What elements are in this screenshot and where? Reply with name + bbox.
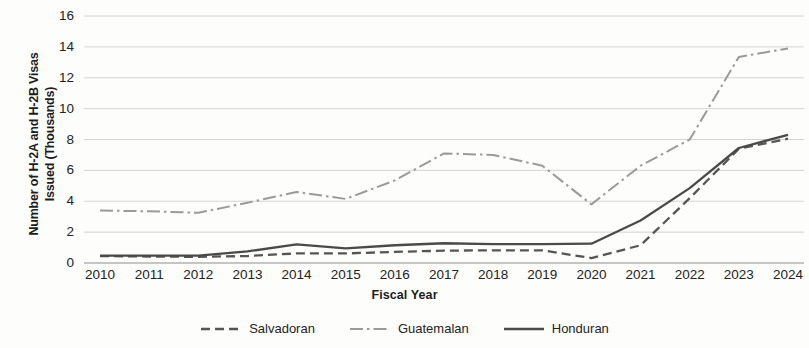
solid-line-icon: [503, 323, 545, 335]
x-axis-title: Fiscal Year: [0, 288, 809, 302]
y-axis-tick-2: 2: [44, 225, 74, 239]
y-axis-tick-14: 14: [44, 40, 74, 54]
legend-item-honduran[interactable]: Honduran: [503, 322, 609, 336]
series-line-guatemalan: [100, 48, 788, 212]
y-axis-tick-12: 12: [44, 71, 74, 85]
dashed-line-icon: [200, 323, 242, 335]
x-axis-tick-2017: 2017: [416, 266, 472, 284]
chart-legend: SalvadoranGuatemalanHonduran: [0, 322, 809, 336]
series-line-salvadoran: [100, 139, 788, 258]
x-axis-tick-2014: 2014: [269, 266, 325, 284]
legend-item-salvadoran[interactable]: Salvadoran: [200, 322, 315, 336]
y-axis-tick-0: 0: [44, 256, 74, 270]
x-axis-tick-labels: 2010201120122013201420152016201720182019…: [84, 266, 804, 288]
x-axis-tick-2022: 2022: [662, 266, 718, 284]
legend-label-guatemalan: Guatemalan: [398, 322, 469, 336]
plot-svg: [84, 0, 804, 264]
x-axis-tick-2021: 2021: [613, 266, 669, 284]
y-axis-tick-16: 16: [44, 9, 74, 23]
plot-area: [84, 0, 804, 264]
x-axis-tick-2020: 2020: [563, 266, 619, 284]
x-axis-tick-2018: 2018: [465, 266, 521, 284]
x-axis-tick-2024: 2024: [760, 266, 809, 284]
x-axis-tick-2016: 2016: [367, 266, 423, 284]
line-chart: Number of H-2A and H-2B Visas Issued (Th…: [0, 0, 809, 348]
legend-label-salvadoran: Salvadoran: [249, 322, 315, 336]
legend-label-honduran: Honduran: [552, 322, 609, 336]
x-axis-tick-2012: 2012: [170, 266, 226, 284]
y-axis-tick-4: 4: [44, 195, 74, 209]
x-axis-tick-2010: 2010: [72, 266, 128, 284]
y-axis-tick-8: 8: [44, 133, 74, 147]
dash-dot-line-icon: [349, 323, 391, 335]
y-axis-tick-6: 6: [44, 164, 74, 178]
y-axis-tick-10: 10: [44, 102, 74, 116]
x-axis-tick-2011: 2011: [121, 266, 177, 284]
y-axis-tick-labels: 0246810121416: [44, 0, 74, 270]
x-axis-tick-2019: 2019: [514, 266, 570, 284]
legend-item-guatemalan[interactable]: Guatemalan: [349, 322, 469, 336]
x-axis-tick-2015: 2015: [318, 266, 374, 284]
y-axis-title-line-1: Number of H-2A and H-2B Visas: [26, 14, 42, 274]
x-axis-tick-2023: 2023: [711, 266, 767, 284]
x-axis-tick-2013: 2013: [219, 266, 275, 284]
